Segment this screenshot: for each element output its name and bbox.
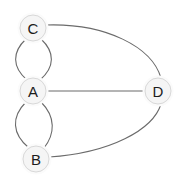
node-label-B: B bbox=[31, 151, 41, 168]
edge-C-A bbox=[16, 39, 27, 80]
node-label-A: A bbox=[28, 83, 38, 100]
edge-C-A bbox=[40, 39, 51, 80]
edge-A-B bbox=[41, 102, 52, 148]
edge-C-D bbox=[46, 25, 161, 78]
graph-diagram: CABD bbox=[0, 0, 183, 179]
edge-A-B bbox=[15, 102, 29, 148]
node-label-D: D bbox=[153, 83, 164, 100]
node-D[interactable]: D bbox=[143, 76, 174, 107]
graph-svg-canvas: CABD bbox=[0, 0, 183, 179]
node-B[interactable]: B bbox=[21, 144, 52, 175]
node-label-C: C bbox=[28, 20, 39, 37]
node-A[interactable]: A bbox=[18, 76, 49, 107]
edge-B-D bbox=[49, 104, 161, 157]
node-C[interactable]: C bbox=[18, 13, 49, 44]
